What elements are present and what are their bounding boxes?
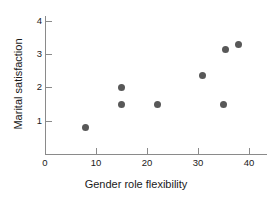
y-tick-mark	[46, 21, 52, 22]
y-tick-label: 2	[28, 82, 42, 92]
x-tick-mark	[249, 148, 250, 154]
x-tick-mark	[96, 148, 97, 154]
x-tick-mark	[198, 148, 199, 154]
x-tick-label: 10	[86, 158, 106, 168]
data-point	[222, 46, 229, 53]
x-tick-mark	[147, 148, 148, 154]
y-tick-mark	[46, 87, 52, 88]
y-axis-title: Marital satisfaction	[12, 14, 24, 154]
data-point	[118, 84, 125, 91]
data-point	[82, 124, 89, 131]
x-tick-label: 30	[188, 158, 208, 168]
y-tick-label: 3	[28, 49, 42, 59]
y-tick-mark	[46, 54, 52, 55]
x-axis-line	[45, 154, 267, 155]
scatter-plot-figure: 1234 010203040 Gender role flexibility M…	[0, 0, 272, 204]
data-point	[235, 41, 242, 48]
data-point	[199, 72, 206, 79]
y-tick-mark	[46, 121, 52, 122]
x-axis-title: Gender role flexibility	[0, 178, 272, 190]
data-point	[118, 101, 125, 108]
data-point	[220, 101, 227, 108]
y-axis-line	[45, 16, 46, 155]
data-point	[154, 101, 161, 108]
y-tick-label: 4	[28, 16, 42, 26]
x-tick-label: 20	[137, 158, 157, 168]
x-tick-label: 40	[239, 158, 259, 168]
y-tick-label: 1	[28, 116, 42, 126]
x-tick-label: 0	[35, 158, 55, 168]
